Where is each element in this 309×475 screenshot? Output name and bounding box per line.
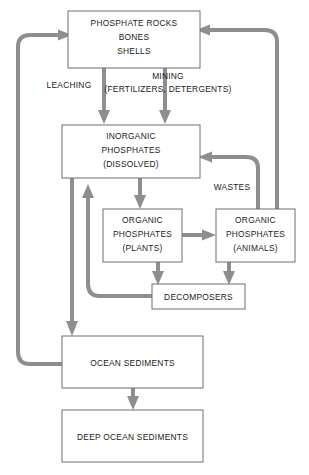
arrow-head xyxy=(223,271,235,285)
node-label-line-2: PHOSPHATES xyxy=(101,145,160,155)
arrow-head xyxy=(127,396,139,410)
arrow-head xyxy=(66,321,78,336)
node-label-line-1: ORGANIC xyxy=(122,215,163,225)
phosphorus-cycle-diagram: PHOSPHATE ROCKS BONES SHELLS INORGANIC P… xyxy=(0,0,309,475)
arrow-head xyxy=(98,110,110,124)
node-label-line-1: DEEP OCEAN SEDIMENTS xyxy=(77,432,188,442)
node-label-line-1: OCEAN SEDIMENTS xyxy=(90,358,175,368)
edge-label-mining: MINING xyxy=(152,71,184,81)
cycle-diagram-canvas: PHOSPHATE ROCKS BONES SHELLS INORGANIC P… xyxy=(0,0,309,475)
node-label-line-3: (DISSOLVED) xyxy=(103,159,159,169)
node-label-line-1: PHOSPHATE ROCKS xyxy=(91,18,178,28)
arrow-head xyxy=(82,184,94,198)
node-label-line-2: PHOSPHATES xyxy=(113,229,172,239)
arrow-head xyxy=(134,195,146,209)
node-label-line-1: DECOMPOSERS xyxy=(164,292,233,302)
flow-ocean-to-deep-ocean-sediments xyxy=(127,388,139,410)
edge-label-leaching: LEACHING xyxy=(47,80,92,90)
node-phosphate-rocks: PHOSPHATE ROCKS BONES SHELLS xyxy=(68,11,200,68)
node-label-line-3: (PLANTS) xyxy=(122,243,162,253)
node-deep-ocean-sediments: DEEP OCEAN SEDIMENTS xyxy=(62,410,203,462)
flow-plants-to-decomposers xyxy=(152,262,164,285)
node-inorganic-phosphates: INORGANIC PHOSPHATES (DISSOLVED) xyxy=(62,125,200,178)
node-label-line-3: (ANIMALS) xyxy=(233,243,278,253)
edge-label-wastes: WASTES xyxy=(214,182,251,192)
node-label-line-2: BONES xyxy=(119,32,150,42)
flow-inorganic-to-plants xyxy=(134,178,146,209)
arrow-head xyxy=(152,271,164,285)
node-label-line-2: PHOSPHATES xyxy=(226,229,285,239)
arrow-head xyxy=(159,110,171,124)
arrow-head xyxy=(202,230,216,241)
flow-animals-to-decomposers xyxy=(223,262,235,285)
node-organic-phosphates-animals: ORGANIC PHOSPHATES (ANIMALS) xyxy=(216,209,295,262)
flow-inorganic-to-ocean-sediments xyxy=(66,178,78,336)
edge-label-mining-detail: (FERTILIZERS, DETERGENTS) xyxy=(104,84,231,94)
flow-leaching xyxy=(98,68,110,124)
node-organic-phosphates-plants: ORGANIC PHOSPHATES (PLANTS) xyxy=(103,209,182,262)
node-label-line-1: ORGANIC xyxy=(235,215,276,225)
node-ocean-sediments: OCEAN SEDIMENTS xyxy=(62,336,203,388)
flow-plants-to-animals xyxy=(182,230,216,241)
node-label-line-3: SHELLS xyxy=(117,46,151,56)
node-decomposers: DECOMPOSERS xyxy=(152,284,245,309)
node-label-line-1: INORGANIC xyxy=(106,131,156,141)
